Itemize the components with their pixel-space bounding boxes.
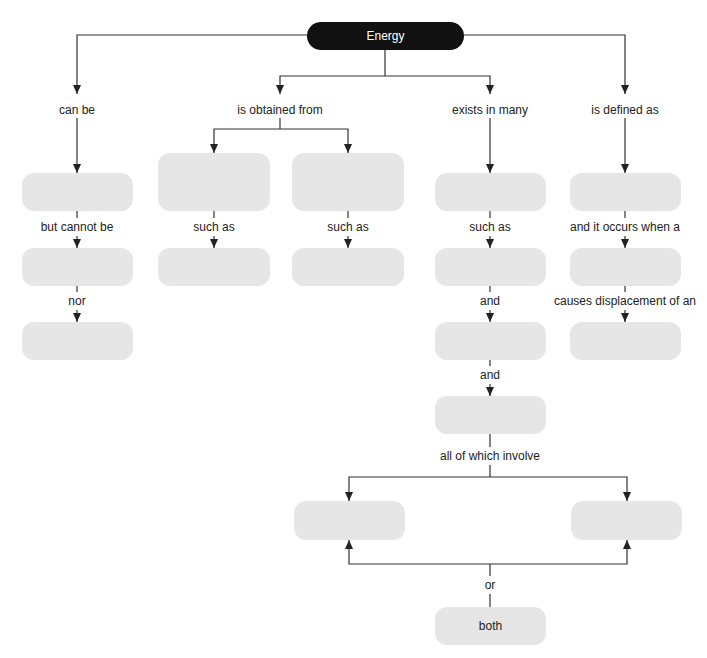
link-exists-in-many: exists in many [450, 103, 530, 117]
energy-concept-map: Energy can be is obtained from exists in… [0, 0, 707, 658]
link-and-1: and [478, 294, 502, 308]
node-forms-3 [435, 322, 546, 360]
node-source-1-example [158, 248, 270, 286]
node-defined-2 [570, 248, 681, 286]
link-but-cannot-be: but cannot be [39, 220, 116, 234]
link-such-as-source-1: such as [191, 220, 236, 234]
node-can-be-3 [22, 322, 133, 360]
node-both-text: both [479, 619, 502, 633]
node-both: both [435, 607, 546, 645]
node-obtained-from-2 [292, 153, 404, 211]
node-involve-right [571, 501, 682, 540]
link-such-as-source-2: such as [325, 220, 370, 234]
node-forms-1 [435, 173, 546, 211]
link-and-2: and [478, 368, 502, 382]
node-involve-left [294, 501, 405, 540]
node-defined-3 [570, 322, 681, 360]
link-nor: nor [66, 294, 87, 308]
link-all-of-which-involve: all of which involve [438, 449, 542, 463]
root-label: Energy [366, 29, 404, 43]
node-source-2-example [292, 248, 404, 286]
node-can-be-1 [22, 173, 133, 211]
node-defined-1 [570, 173, 681, 211]
link-causes-displacement-of-an: causes displacement of an [552, 294, 698, 308]
link-is-obtained-from: is obtained from [235, 103, 324, 117]
node-obtained-from-1 [158, 153, 270, 211]
root-node-energy: Energy [307, 22, 464, 50]
node-forms-4 [435, 396, 546, 434]
link-is-defined-as: is defined as [589, 103, 660, 117]
link-can-be: can be [57, 103, 97, 117]
link-such-as-forms: such as [467, 220, 512, 234]
link-and-it-occurs-when-a: and it occurs when a [568, 220, 682, 234]
link-or: or [483, 578, 498, 592]
node-can-be-2 [22, 248, 133, 286]
node-forms-2 [435, 248, 546, 286]
